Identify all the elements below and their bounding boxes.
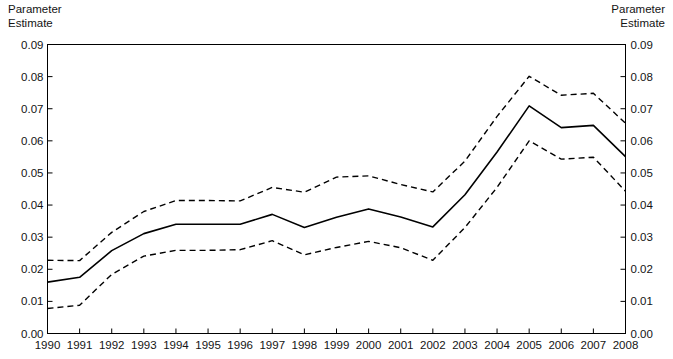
series-line	[48, 76, 626, 260]
plot-frame	[48, 45, 626, 334]
plot-series-layer	[48, 76, 626, 308]
chart-figure: Parameter Estimate Parameter Estimate 0.…	[0, 0, 673, 359]
line-chart-plot	[0, 0, 673, 359]
series-line	[48, 141, 626, 309]
plot-tickmarks	[48, 45, 626, 334]
series-line	[48, 106, 626, 282]
